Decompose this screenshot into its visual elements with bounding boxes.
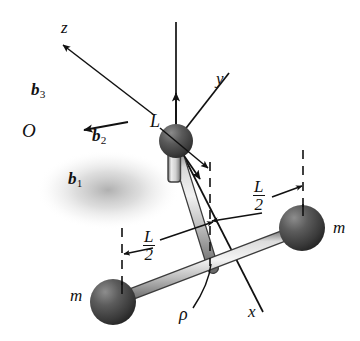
- mass-left-sphere: [90, 279, 136, 325]
- axis-label-y: y: [216, 70, 224, 87]
- length-L-label: L: [150, 112, 160, 130]
- x-axis-line: [176, 141, 263, 312]
- half-L-right-label: L 2: [253, 178, 265, 214]
- basis-vector-1-symbol: b: [68, 169, 77, 188]
- physics-diagram: z y x O b3 b2 b1 L L 2 L 2 m m ρ: [0, 0, 360, 341]
- basis-vector-1-label: b1: [68, 170, 82, 189]
- basis-vector-3-label: b3: [31, 81, 45, 100]
- basis-vector-2-label: b2: [92, 127, 106, 146]
- basis-vector-2-subscript: 2: [101, 134, 107, 146]
- axis-label-z: z: [61, 19, 68, 36]
- axis-label-x: x: [248, 303, 256, 320]
- half-L-right-leader-right: [272, 186, 302, 197]
- half-L-left-numerator: L: [143, 228, 155, 245]
- half-L-right-numerator: L: [253, 178, 265, 195]
- length-L-leader-left: [63, 45, 154, 115]
- main-rod: [176, 148, 213, 268]
- basis-vector-3-subscript: 3: [40, 88, 46, 100]
- mass-right-sphere: [279, 205, 325, 251]
- mass-right-label: m: [333, 219, 345, 236]
- mass-left-label: m: [70, 287, 82, 304]
- diagram-canvas: [0, 0, 360, 341]
- basis-vector-2-symbol: b: [92, 126, 101, 145]
- half-L-left-label: L 2: [143, 228, 155, 264]
- half-L-right-denominator: 2: [253, 195, 265, 213]
- basis-vector-1-subscript: 1: [77, 177, 83, 189]
- rho-label: ρ: [179, 305, 188, 323]
- origin-label: O: [22, 121, 36, 140]
- half-L-left-denominator: 2: [143, 245, 155, 263]
- half-L-right-leader-left: [212, 213, 262, 221]
- ground-shadow: [36, 150, 180, 230]
- basis-vector-3-symbol: b: [31, 80, 40, 99]
